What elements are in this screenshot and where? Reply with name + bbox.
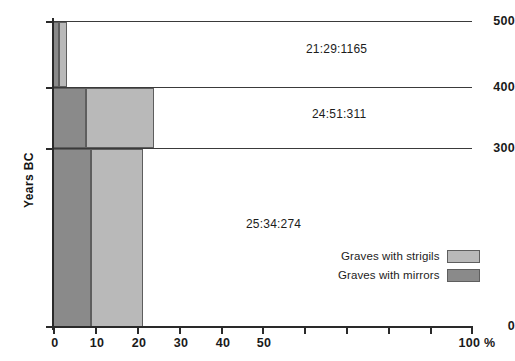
x-tick-label-20: 20 [132, 336, 147, 350]
x-tick-100 [471, 327, 473, 334]
bar-strigils-500-400 [59, 22, 67, 87]
x-tick-label-50: 50 [257, 336, 272, 350]
bar-strigils-300-0 [91, 149, 143, 327]
x-tick-label-30: 30 [174, 336, 189, 350]
gridline-500 [53, 21, 472, 22]
y-tick-label-0: 0 [471, 319, 515, 333]
x-tick-60 [304, 327, 306, 334]
x-tick-30 [179, 327, 181, 334]
legend-label-strigils: Graves with strigils [341, 250, 440, 262]
x-tick-label-100: 100 % [459, 336, 496, 350]
bar-mirrors-400-300 [53, 88, 86, 148]
legend-item-strigils: Graves with strigils [338, 249, 480, 263]
legend-label-mirrors: Graves with mirrors [338, 269, 440, 281]
legend-swatch-mirrors [447, 269, 480, 282]
y-tick-500 [46, 21, 54, 23]
y-tick-label-400: 400 [471, 80, 515, 94]
y-axis-title: Years BC [22, 152, 36, 208]
legend-swatch-strigils [447, 250, 480, 263]
annotation-500-400: 21:29:1165 [306, 42, 367, 56]
x-tick-40 [221, 327, 223, 334]
x-tick-label-40: 40 [216, 336, 231, 350]
x-tick-80 [388, 327, 390, 334]
y-tick-400 [46, 87, 54, 89]
bar-strigils-400-300 [86, 88, 154, 148]
annotation-300-0: 25:34:274 [246, 217, 301, 231]
y-axis-line [52, 18, 54, 330]
chart-container: 500 400 300 0 0 10 20 30 40 50 100 % Yea… [0, 0, 515, 361]
bar-mirrors-300-0 [53, 149, 91, 327]
y-tick-300 [46, 148, 54, 150]
x-tick-50 [262, 327, 264, 334]
x-tick-label-0: 0 [51, 336, 58, 350]
annotation-400-300: 24:51:311 [312, 107, 366, 121]
x-tick-label-10: 10 [90, 336, 105, 350]
y-tick-label-500: 500 [471, 14, 515, 28]
y-tick-label-300: 300 [471, 141, 515, 155]
x-tick-0 [53, 327, 55, 334]
x-tick-20 [137, 327, 139, 334]
x-tick-10 [95, 327, 97, 334]
chart-legend: Graves with strigils Graves with mirrors [338, 249, 480, 287]
x-tick-90 [430, 327, 432, 334]
legend-item-mirrors: Graves with mirrors [338, 268, 480, 282]
x-tick-70 [346, 327, 348, 334]
